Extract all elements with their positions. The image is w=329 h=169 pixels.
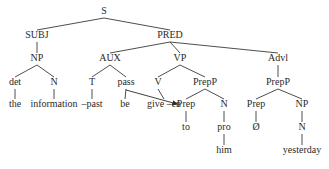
syntax-tree-diagram: SSUBJPREDNPAUXVPAdvldetNTpassVPrepPPrepP… (0, 0, 329, 169)
node-vp: VP (174, 52, 187, 63)
node-subj: SUBJ (25, 29, 48, 40)
edge-VP-PrepP1 (180, 65, 205, 77)
node-v: V (154, 76, 162, 87)
node-him: him (216, 144, 232, 155)
node-det: det (9, 76, 21, 87)
node-the: the (9, 98, 22, 109)
edge-NP1-det (15, 65, 37, 77)
node-be: be (120, 98, 130, 109)
node-information: information (30, 98, 77, 109)
node-past: –past (80, 98, 102, 109)
node-np2: NP (296, 98, 309, 109)
edge-VP-V (158, 65, 180, 77)
node-pred: PRED (157, 29, 183, 40)
edge-NP1-N1 (37, 65, 54, 77)
tree-nodes: SSUBJPREDNPAUXVPAdvldetNTpassVPrepPPrepP… (9, 5, 321, 155)
node-prep2: Prep (247, 98, 265, 109)
edge-S-PRED (104, 18, 170, 30)
node-pass: pass (117, 76, 134, 87)
node-prep1: Prep (177, 98, 195, 109)
edge-S-SUBJ (37, 18, 104, 30)
edge-AUX-pass (110, 65, 126, 77)
node-advl: Advl (268, 52, 288, 63)
node-prepp2: PrepP (266, 76, 290, 87)
node-n1: N (50, 76, 57, 87)
node-n3: N (298, 121, 305, 132)
node-t: T (89, 76, 95, 87)
edge-AUX-T (92, 65, 110, 77)
node-s: S (101, 5, 107, 16)
node-yesterday: yesterday (283, 144, 321, 155)
node-aux: AUX (99, 52, 121, 63)
node-prepp1: PrepP (193, 76, 217, 87)
node-np1: NP (31, 52, 44, 63)
node-n2: N (220, 98, 227, 109)
node-to: to (182, 121, 190, 132)
node-pro: pro (217, 121, 230, 132)
node-null: Ø (252, 121, 259, 132)
